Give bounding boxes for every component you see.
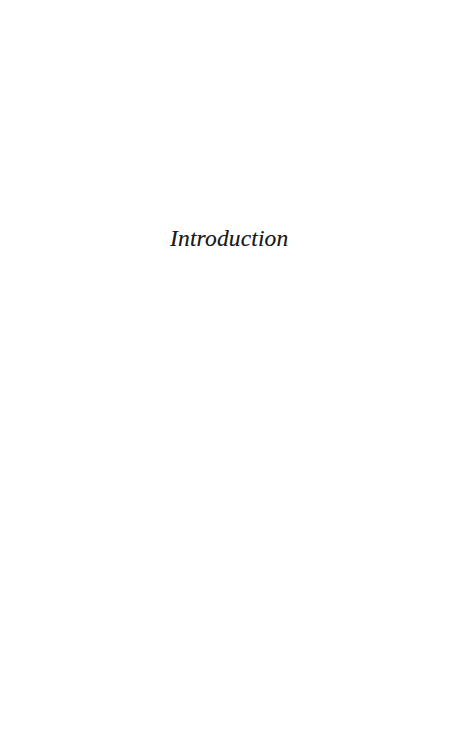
- page-title: Introduction: [170, 224, 288, 252]
- book-page: Introduction: [0, 0, 459, 746]
- title-block: Introduction: [170, 224, 288, 252]
- body-text-area: [62, 270, 397, 690]
- page-footer: [0, 700, 459, 720]
